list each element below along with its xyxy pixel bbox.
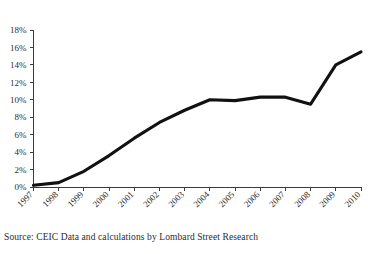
y-axis-tick-marks [30,30,34,187]
y-tick-label: 4% [15,147,28,157]
y-tick-label: 18% [10,25,27,35]
x-tick-label: 1998 [40,189,60,209]
x-tick-label: 2004 [191,189,211,209]
y-tick-label: 14% [10,60,27,70]
y-tick-label: 16% [10,43,27,53]
line-chart: 0%2%4%6%8%10%12%14%16%18% 19971998199920… [0,0,368,226]
y-tick-label: 8% [15,112,28,122]
chart-figure: 0%2%4%6%8%10%12%14%16%18% 19971998199920… [0,0,368,254]
x-tick-label: 2008 [292,189,312,209]
source-caption: Source: CEIC Data and calculations by Lo… [4,232,258,242]
x-tick-label: 2000 [91,189,111,209]
x-tick-label: 2006 [242,189,262,209]
y-tick-label: 10% [10,95,27,105]
x-axis-tick-labels: 1997199819992000200120022003200420052006… [15,189,363,209]
x-tick-label: 2002 [141,189,161,209]
y-tick-label: 12% [10,78,27,88]
x-tick-label: 2007 [267,189,287,209]
x-tick-label: 2001 [116,189,136,209]
x-tick-label: 2005 [217,189,237,209]
x-axis-tick-marks [34,187,362,191]
y-tick-label: 6% [15,130,28,140]
x-tick-label: 2010 [343,189,363,209]
data-series-line [34,52,362,185]
y-tick-label: 2% [15,165,28,175]
x-tick-label: 2003 [166,189,186,209]
x-tick-label: 1999 [65,189,85,209]
y-axis-tick-labels: 0%2%4%6%8%10%12%14%16%18% [10,25,27,192]
x-tick-label: 2009 [317,189,337,209]
